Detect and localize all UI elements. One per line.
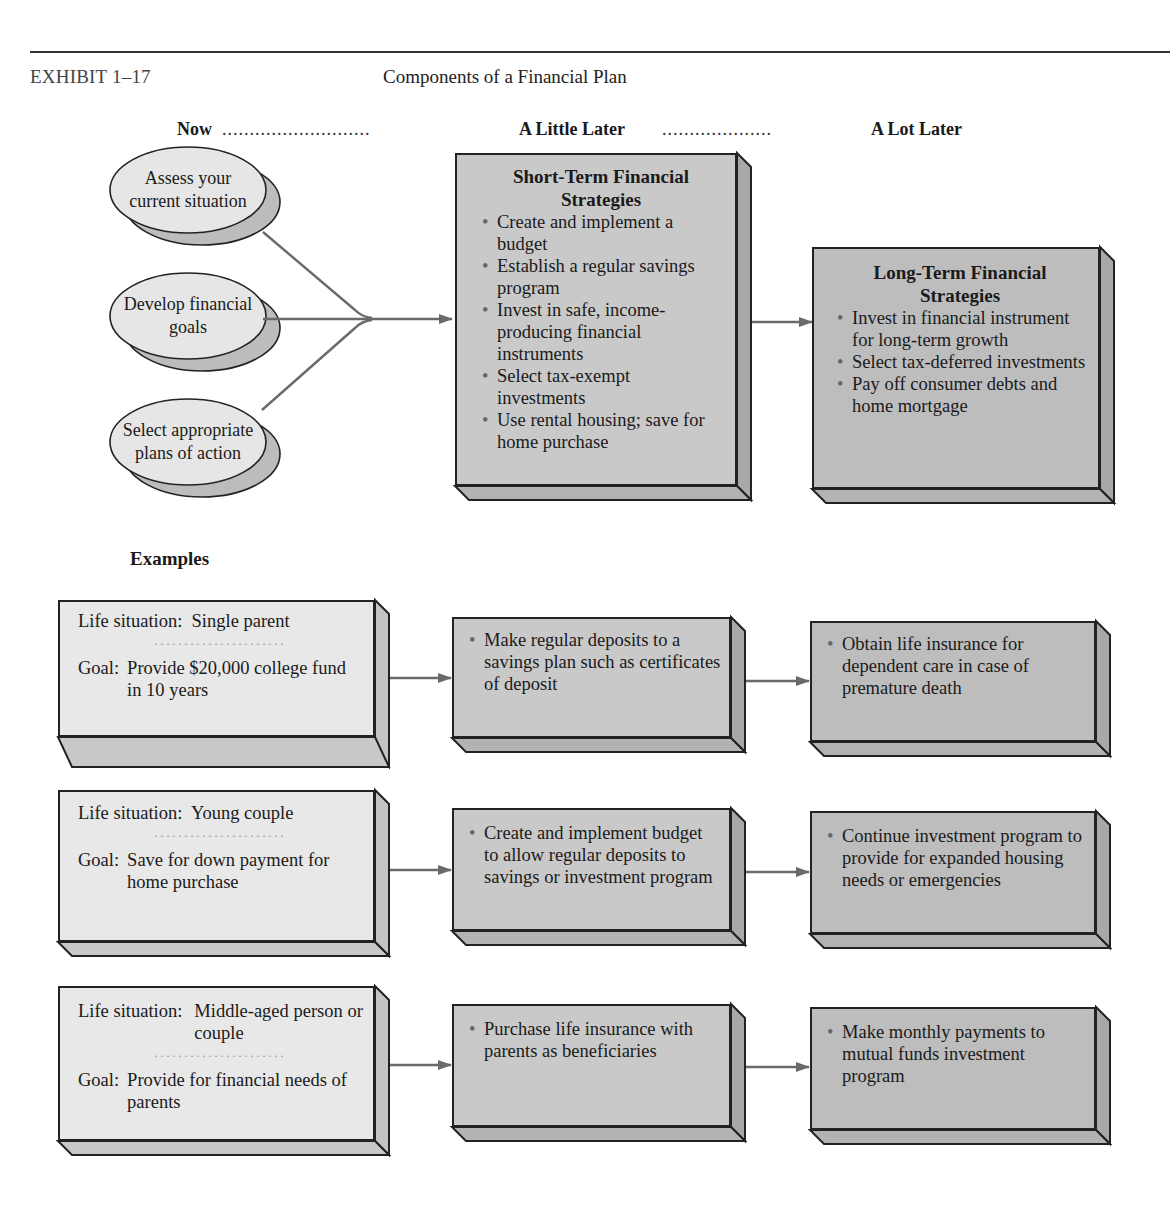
step-1-line-2: current situation (110, 190, 266, 213)
example-short-term-box-3: Purchase life insurance with parents as … (452, 1004, 731, 1127)
dotted-separator: ...................... (78, 826, 363, 841)
goal-line: Goal:Provide $20,000 college fund in 10 … (78, 657, 363, 701)
situation-line: Life situation: Young couple (78, 802, 363, 824)
dotted-separator: ...................... (78, 634, 363, 649)
example-long-term-box-3: Make monthly payments to mutual funds in… (810, 1007, 1096, 1130)
long-term-box-bottom (812, 489, 1114, 503)
example-short-term-item: Create and implement budget to allow reg… (466, 822, 721, 888)
situation-value: Middle-aged person or couple (182, 1000, 363, 1044)
short-term-title: Short-Term Financial Strategies (479, 165, 723, 211)
situation-value: Young couple (191, 803, 293, 823)
step-2-line-1: Develop financial (110, 293, 266, 316)
short-term-item: Create and implement a budget (479, 211, 723, 255)
example-situation-box-2: Life situation: Young couple ...........… (58, 790, 375, 942)
situation-label: Life situation: (78, 1000, 182, 1044)
example-short-term-box-2: Create and implement budget to allow reg… (452, 808, 731, 931)
step-develop-goals: Develop financial goals (110, 293, 266, 339)
example-short-term-item: Purchase life insurance with parents as … (466, 1018, 721, 1062)
long-term-item: Invest in financial instrument for long-… (834, 307, 1086, 351)
situation-line: Life situation: Single parent (78, 610, 363, 632)
short-term-strategies-box: Short-Term Financial Strategies Create a… (455, 153, 737, 486)
short-term-item: Invest in safe, income-producing financi… (479, 299, 723, 365)
long-term-title: Long-Term Financial Strategies (834, 261, 1086, 307)
goal-line: Goal:Save for down payment for home purc… (78, 849, 363, 893)
example-long-term-item: Obtain life insurance for dependent care… (824, 633, 1086, 699)
short-term-item: Select tax-exempt investments (479, 365, 723, 409)
goal-line: Goal:Provide for financial needs of pare… (78, 1069, 363, 1113)
short-term-title-line-1: Short-Term Financial (479, 165, 723, 188)
example-situation-box-1: Life situation: Single parent ..........… (58, 600, 375, 737)
situation-label: Life situation: (78, 803, 182, 823)
example-short-term-item: Make regular deposits to a savings plan … (466, 629, 721, 695)
goal-label: Goal: (78, 849, 119, 893)
goal-value: Provide $20,000 college fund in 10 years (119, 657, 363, 701)
converging-connector (262, 232, 452, 410)
step-2-line-2: goals (110, 316, 266, 339)
short-term-item: Establish a regular savings program (479, 255, 723, 299)
step-assess-situation: Assess your current situation (110, 167, 266, 213)
example-situation-box-3: Life situation:Middle-aged person or cou… (58, 986, 375, 1141)
long-term-box-side (1100, 247, 1114, 503)
short-term-title-line-2: Strategies (479, 188, 723, 211)
example-long-term-box-2: Continue investment program to provide f… (810, 811, 1096, 934)
example-short-term-box-1: Make regular deposits to a savings plan … (452, 617, 731, 738)
short-term-box-side (737, 153, 751, 500)
situation-label: Life situation: (78, 611, 182, 631)
goal-value: Save for down payment for home purchase (119, 849, 363, 893)
situation-line: Life situation:Middle-aged person or cou… (78, 1000, 363, 1044)
example-long-term-box-1: Obtain life insurance for dependent care… (810, 621, 1096, 742)
long-term-item: Pay off consumer debts and home mortgage (834, 373, 1086, 417)
situation-value: Single parent (192, 611, 290, 631)
long-term-title-line-1: Long-Term Financial (834, 261, 1086, 284)
step-3-line-1: Select appropriate (110, 419, 266, 442)
dotted-separator: ...................... (78, 1046, 363, 1061)
long-term-title-line-2: Strategies (834, 284, 1086, 307)
goal-label: Goal: (78, 1069, 119, 1113)
goal-value: Provide for financial needs of parents (119, 1069, 363, 1113)
short-term-list: Create and implement a budget Establish … (479, 211, 723, 453)
example-long-term-item: Make monthly payments to mutual funds in… (824, 1021, 1086, 1087)
short-term-item: Use rental housing; save for home purcha… (479, 409, 723, 453)
long-term-list: Invest in financial instrument for long-… (834, 307, 1086, 417)
step-1-line-1: Assess your (110, 167, 266, 190)
step-3-line-2: plans of action (110, 442, 266, 465)
goal-label: Goal: (78, 657, 119, 701)
example-long-term-item: Continue investment program to provide f… (824, 825, 1086, 891)
long-term-item: Select tax-deferred investments (834, 351, 1086, 373)
short-term-box-bottom (455, 486, 751, 500)
step-select-plans: Select appropriate plans of action (110, 419, 266, 465)
long-term-strategies-box: Long-Term Financial Strategies Invest in… (812, 247, 1100, 489)
